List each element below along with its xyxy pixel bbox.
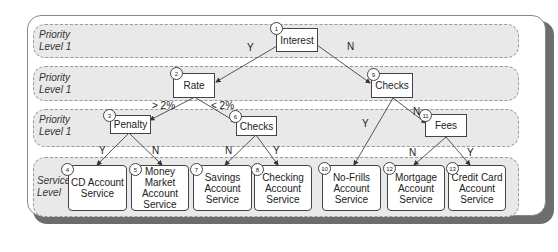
edge-label-9-10: Y — [362, 118, 369, 129]
edge-label-9-11: N — [413, 106, 420, 117]
node-label: Credit Card Account Service — [449, 172, 505, 205]
node-checks-6[interactable]: Checks — [236, 116, 277, 136]
node-number-badge: 12 — [383, 162, 396, 175]
node-number-badge: 10 — [318, 162, 331, 175]
node-number-badge: 7 — [190, 163, 203, 176]
node-label: Rate — [183, 80, 204, 91]
node-label: Interest — [280, 35, 313, 46]
node-number-badge: 4 — [61, 163, 74, 176]
edge-label-3-4: Y — [99, 145, 106, 156]
edge-1-9 — [317, 45, 370, 83]
node-label: Penalty — [114, 119, 147, 130]
node-number-badge: 5 — [129, 163, 142, 176]
edge-label-6-7: N — [225, 145, 232, 156]
node-number-badge: 13 — [446, 162, 459, 175]
edge-9-10 — [354, 98, 393, 165]
node-number-badge: 9 — [367, 68, 380, 81]
node-number-badge: 2 — [170, 67, 183, 80]
edge-label-11-12: N — [409, 147, 416, 158]
node-number-badge: 11 — [419, 109, 432, 122]
node-interest[interactable]: Interest — [276, 28, 318, 52]
service-mortgage-account[interactable]: Mortgage Account Service — [387, 165, 445, 211]
service-cd-account[interactable]: CD Account Service — [68, 165, 127, 211]
node-label: Savings Account Service — [194, 172, 251, 205]
edge-label-2-6: < 2% — [211, 100, 234, 111]
edge-label-6-8: Y — [273, 145, 280, 156]
edge-label-1-2: Y — [247, 42, 254, 53]
node-number-badge: 8 — [251, 163, 264, 176]
node-label: No-Frills Account Service — [323, 172, 380, 205]
edge-label-1-9: N — [347, 41, 354, 52]
edge-label-2-3: > 2% — [152, 100, 175, 111]
edge-11-12 — [414, 137, 446, 165]
node-number-badge: 1 — [270, 22, 283, 35]
node-label: CD Account Service — [69, 177, 126, 199]
service-no-frills-account[interactable]: No-Frills Account Service — [322, 165, 381, 211]
node-number-badge: 6 — [229, 110, 242, 123]
edge-label-11-13: Y — [467, 147, 474, 158]
node-label: Mortgage Account Service — [388, 172, 444, 205]
edge-label-3-5: N — [152, 145, 159, 156]
node-label: Checks — [240, 121, 273, 132]
node-penalty[interactable]: Penalty — [110, 115, 151, 134]
node-number-badge: 3 — [103, 109, 116, 122]
node-label: Checks — [375, 80, 408, 91]
node-label: Fees — [435, 120, 457, 131]
node-label: Checking Account Service — [255, 172, 311, 205]
